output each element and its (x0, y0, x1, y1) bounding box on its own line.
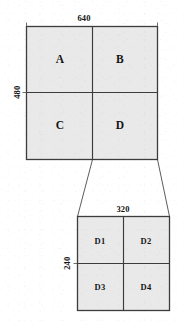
full-resolution-frame (23, 23, 158, 160)
cell-b-label: B (106, 54, 134, 66)
cell-d3-label: D3 (87, 283, 113, 292)
cell-a-label: A (46, 54, 74, 66)
cell-d1-label: D1 (87, 237, 113, 246)
connector-line-right (158, 160, 170, 217)
full-frame-height-label: 480 (13, 72, 22, 112)
diagram-canvas: 640 480 A B C D 320 240 D1 D2 D3 D4 (0, 0, 177, 321)
connector-line-left (78, 160, 93, 217)
quadrant-d-detail-frame (74, 217, 170, 311)
cell-d-label: D (106, 120, 134, 132)
cell-c-label: C (46, 120, 74, 132)
full-frame-width-label: 640 (64, 14, 104, 23)
diagram-graphics (0, 0, 177, 321)
detail-frame-width-label: 320 (103, 205, 143, 214)
cell-d4-label: D4 (133, 283, 159, 292)
cell-d2-label: D2 (133, 237, 159, 246)
detail-frame-height-label: 240 (63, 243, 72, 283)
